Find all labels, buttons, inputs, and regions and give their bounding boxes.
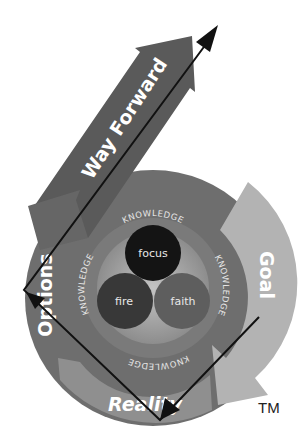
goal-label: Goal [256,251,278,299]
options-label: Options [34,253,56,336]
core-focus: focus [125,225,181,281]
grow-model-diagram: KNOWLEDGE KNOWLEDGE KNOWLEDGE KNOWLEDGE … [0,0,307,447]
trademark-mark: TM [258,399,280,416]
focus-label: focus [138,247,168,260]
core-fire: fire [97,273,153,329]
fire-label: fire [115,295,133,308]
faith-label: faith [171,295,196,308]
core-faith: faith [154,273,210,329]
way-forward-arrowhead-icon [196,25,218,52]
